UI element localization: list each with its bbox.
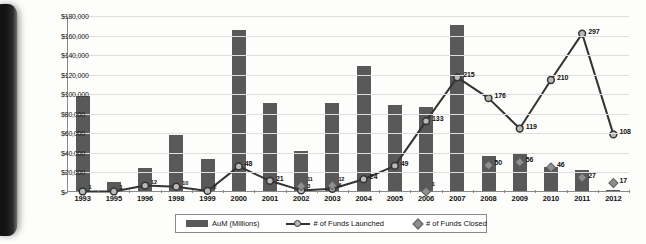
grid-line (67, 55, 629, 56)
bar-swatch-icon (186, 220, 208, 227)
x-axis-tick-label: 2005 (387, 194, 403, 203)
data-label-funds-launched: 12 (151, 179, 157, 185)
grid-line (67, 114, 629, 115)
x-axis-tick (473, 190, 474, 193)
funds-launched-marker (391, 162, 398, 169)
data-label-funds-closed: 27 (588, 172, 596, 179)
data-label-funds-launched: 133 (432, 115, 443, 122)
funds-closed-marker (578, 173, 587, 182)
x-axis-tick-label: 2009 (512, 194, 528, 203)
funds-launched-marker (142, 182, 149, 189)
funds-launched-marker (267, 177, 274, 184)
x-axis-tick-label: 2010 (543, 194, 559, 203)
legend-label-aum: AuM (Millions) (212, 219, 260, 228)
x-axis-tick (161, 190, 162, 193)
x-axis-tick (254, 190, 255, 193)
data-label-funds-closed: 11 (307, 176, 313, 182)
legend-item-aum: AuM (Millions) (186, 219, 260, 228)
grid-line (67, 75, 629, 76)
data-label-funds-launched: 215 (463, 71, 474, 78)
funds-launched-marker (423, 118, 430, 125)
plot-area (67, 16, 629, 192)
x-axis-tick-label: 2001 (262, 194, 278, 203)
funds-closed-marker (609, 178, 618, 187)
x-axis-tick-label: 2007 (449, 194, 465, 203)
x-axis-tick (348, 190, 349, 193)
legend-label-funds-launched: # of Funds Launched (314, 219, 384, 228)
data-label-funds-launched: 119 (526, 123, 537, 130)
data-label-funds-launched: 3 (307, 183, 310, 189)
x-axis-tick (410, 190, 411, 193)
x-axis-tick-label: 1999 (199, 194, 215, 203)
data-label-funds-launched: 49 (401, 160, 409, 167)
data-label-funds-closed: 46 (557, 161, 565, 168)
x-axis-tick-label: 2002 (293, 194, 309, 203)
diamond-swatch-icon (412, 218, 423, 229)
x-axis-tick (442, 190, 443, 193)
x-axis-tick-label: 1995 (106, 194, 122, 203)
x-axis-tick (223, 190, 224, 193)
grid-line (67, 153, 629, 154)
legend-item-funds-launched: # of Funds Launched (286, 219, 384, 228)
legend-item-funds-closed: # of Funds Closed (414, 219, 487, 228)
legend-label-funds-closed: # of Funds Closed (426, 219, 487, 228)
funds-closed-marker (515, 158, 524, 167)
funds-launched-line (83, 34, 614, 192)
grid-line (67, 36, 629, 37)
data-label-funds-closed: 50 (495, 159, 503, 166)
data-label-funds-launched: 1 (120, 184, 123, 190)
x-axis-tick-label: 2011 (574, 194, 590, 203)
funds-launched-marker (173, 183, 180, 190)
data-label-funds-launched: 108 (619, 128, 630, 135)
chart-page: $180,000$160,000$140,000$120,000$100,000… (0, 0, 646, 244)
x-axis-tick-label: 2006 (418, 194, 434, 203)
funds-launched-marker (235, 163, 242, 170)
x-axis-tick-labels: 1993199519961998199920002001200220032004… (67, 194, 629, 208)
data-label-funds-launched: 6 (338, 182, 341, 188)
funds-closed-marker (484, 161, 493, 170)
grid-line (67, 94, 629, 95)
x-axis-tick-label: 1996 (137, 194, 153, 203)
data-label-funds-launched: 210 (557, 74, 568, 81)
x-axis-tick (98, 190, 99, 193)
data-label-funds-launched: 176 (495, 92, 506, 99)
funds-launched-marker (516, 125, 523, 132)
x-axis-tick (535, 190, 536, 193)
data-label-funds-launched: 10 (182, 180, 188, 186)
x-axis-tick (379, 190, 380, 193)
data-label-funds-closed: 12 (338, 176, 344, 182)
data-label-funds-launched: 48 (245, 160, 253, 167)
x-axis-tick (286, 190, 287, 193)
x-axis-tick (567, 190, 568, 193)
aum-funds-combo-chart: $180,000$160,000$140,000$120,000$100,000… (0, 0, 646, 244)
x-axis-tick-label: 2003 (324, 194, 340, 203)
line-series-overlay (67, 16, 629, 192)
x-axis-tick (192, 190, 193, 193)
funds-launched-marker (485, 95, 492, 102)
x-axis-tick-label: 2004 (355, 194, 371, 203)
funds-closed-marker (546, 163, 555, 172)
x-axis-tick-label: 2000 (231, 194, 247, 203)
data-label-funds-launched: 2 (214, 184, 217, 190)
x-axis-tick-label: 2012 (605, 194, 621, 203)
x-axis-tick (504, 190, 505, 193)
x-axis-tick-label: 2008 (480, 194, 496, 203)
grid-line (67, 16, 629, 17)
x-axis-tick (67, 190, 68, 193)
data-label-funds-launched: 1 (89, 184, 92, 190)
funds-launched-marker (610, 131, 617, 138)
funds-launched-marker (548, 77, 555, 84)
data-label-funds-launched: 24 (370, 173, 378, 180)
x-axis-tick (129, 190, 130, 193)
data-label-funds-closed: 17 (619, 177, 627, 184)
grid-line (67, 133, 629, 134)
data-label-funds-launched: 21 (276, 175, 284, 182)
x-axis-tick-label: 1993 (74, 194, 90, 203)
x-axis-tick (629, 190, 630, 193)
data-label-funds-closed: 56 (526, 156, 534, 163)
x-axis-tick (317, 190, 318, 193)
grid-line (67, 172, 629, 173)
chart-legend: AuM (Millions) # of Funds Launched # of … (175, 214, 487, 233)
line-marker-swatch-icon (286, 220, 310, 228)
x-axis-tick-label: 1998 (168, 194, 184, 203)
